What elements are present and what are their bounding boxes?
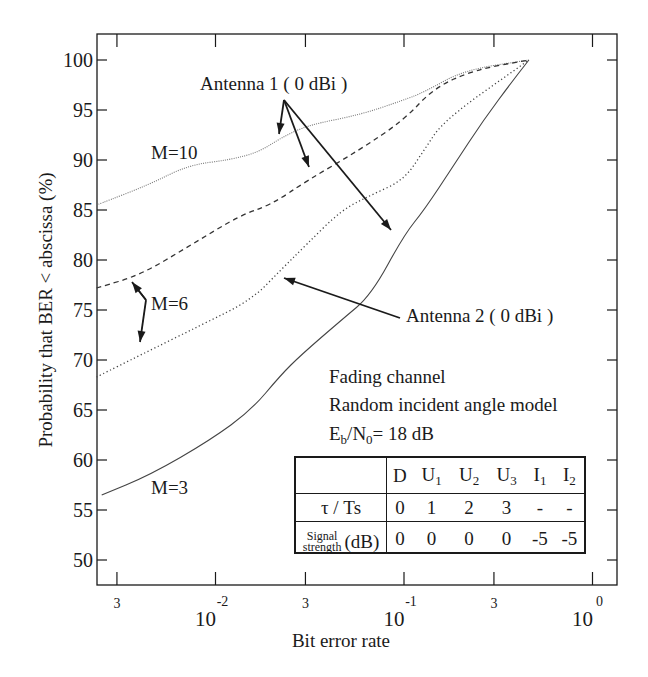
y-tick-label: 90 — [73, 149, 93, 171]
x-tick-label: 10 — [384, 607, 405, 631]
x-tick-exponent: -1 — [405, 594, 417, 609]
arrowhead-icon — [138, 331, 146, 342]
arrow-antenna2-to-m6 — [284, 278, 400, 318]
header-u1: U1 — [413, 458, 450, 494]
y-tick-label: 60 — [73, 449, 93, 471]
table-cell: 0 — [387, 522, 413, 555]
table-cell: - — [555, 494, 584, 522]
y-tick-label: 55 — [73, 499, 93, 521]
y-axis-label: Probability that BER < abscissa (%) — [35, 172, 57, 447]
label-m3: M=3 — [151, 477, 188, 498]
x-tick-label: 3 — [490, 596, 497, 611]
table-row-signal-strength: Signalstrength (dB) 0 0 0 0 -5 -5 — [296, 522, 584, 555]
row-label-signal-strength: Signalstrength (dB) — [296, 522, 387, 555]
condition-fading-channel: Fading channel — [329, 366, 446, 387]
table-cell: 0 — [413, 522, 450, 555]
y-tick-label: 80 — [73, 249, 93, 271]
label-m6: M=6 — [151, 293, 188, 314]
annotation-antenna-2: Antenna 2 ( 0 dBi ) — [406, 305, 553, 327]
parameter-table: D U1 U2 U3 I1 I2 τ / Ts 0 1 2 3 - - Sign… — [296, 458, 584, 554]
arrowhead-icon — [301, 155, 309, 167]
condition-angle-model: Random incident angle model — [329, 394, 557, 415]
chart: 50556065707580859095100 310-2310-13100 P… — [0, 0, 648, 677]
curve-dashed — [97, 60, 529, 288]
table-cell: -5 — [525, 522, 554, 555]
y-tick-label: 70 — [73, 349, 93, 371]
table-cell: 1 — [413, 494, 450, 522]
x-tick-exponent: 0 — [596, 594, 603, 609]
channel-parameter-table: D U1 U2 U3 I1 I2 τ / Ts 0 1 2 3 - - Sign… — [294, 456, 586, 554]
y-tick-label: 65 — [73, 399, 93, 421]
table-cell: - — [525, 494, 554, 522]
x-tick-label: 3 — [113, 596, 120, 611]
x-tick-label: 10 — [195, 607, 216, 631]
y-tick-label: 100 — [63, 49, 93, 71]
table-cell: 0 — [387, 494, 413, 522]
y-tick-label: 75 — [73, 299, 93, 321]
y-tick-label: 50 — [73, 549, 93, 571]
y-tick-label: 95 — [73, 99, 93, 121]
curve-solid — [102, 60, 529, 495]
header-d: D — [387, 458, 413, 494]
table-cell: -5 — [555, 522, 584, 555]
condition-ebn0: Eb/N0= 18 dB — [329, 423, 434, 447]
x-tick-label: 3 — [302, 596, 309, 611]
data-curves — [97, 60, 529, 495]
annotation-antenna-1: Antenna 1 ( 0 dBi ) — [200, 73, 347, 95]
x-tick-label: 10 — [572, 607, 593, 631]
header-i1: I1 — [525, 458, 554, 494]
header-i2: I2 — [555, 458, 584, 494]
table-cell: 0 — [450, 522, 487, 555]
header-u3: U3 — [488, 458, 525, 494]
table-row-tau: τ / Ts 0 1 2 3 - - — [296, 494, 584, 522]
label-m10: M=10 — [151, 142, 198, 163]
table-cell: 2 — [450, 494, 487, 522]
arrowhead-icon — [277, 123, 285, 134]
row-label-tau: τ / Ts — [296, 494, 387, 522]
curve-dotted — [97, 60, 529, 377]
table-corner-cell — [296, 458, 387, 494]
header-u2: U2 — [450, 458, 487, 494]
table-cell: 3 — [488, 494, 525, 522]
x-tick-exponent: -2 — [217, 594, 229, 609]
x-axis-label: Bit error rate — [292, 630, 390, 651]
arrow-antenna1-to-m3 — [284, 100, 391, 230]
arrowhead-icon — [284, 278, 296, 286]
table-header-row: D U1 U2 U3 I1 I2 — [296, 458, 584, 494]
table-cell: 0 — [488, 522, 525, 555]
y-tick-label: 85 — [73, 199, 93, 221]
